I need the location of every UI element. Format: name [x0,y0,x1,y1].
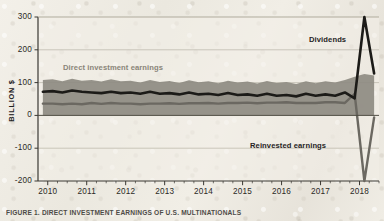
y-axis-tick-label: 100 [2,78,32,87]
x-axis-tick-label: 2015 [226,187,260,196]
series-label-dividends: Dividends [309,35,346,44]
x-axis-tick-label: 2010 [31,187,65,196]
figure-caption-text: DIRECT INVESTMENT EARNINGS OF U.S. MULTI… [42,209,241,216]
figure-container: BILLION $ Direct investment earnings Div… [0,0,384,221]
y-axis-tick-label: 0 [2,110,32,119]
x-axis-tick-label: 2011 [70,187,104,196]
figure-caption-label: FIGURE 1. [6,209,40,216]
x-axis-tick-label: 2017 [304,187,338,196]
y-axis-tick-label: -100 [2,143,32,152]
x-axis-tick-label: 2012 [109,187,143,196]
x-axis-tick-label: 2018 [343,187,377,196]
x-axis-tick-label: 2013 [148,187,182,196]
x-axis-tick-label: 2014 [187,187,221,196]
series-label-direct-investment-earnings: Direct investment earnings [63,63,163,72]
x-axis-tick-label: 2016 [265,187,299,196]
y-axis-tick-label: -200 [2,176,32,185]
figure-caption: FIGURE 1. DIRECT INVESTMENT EARNINGS OF … [6,209,241,216]
y-axis-tick-label: 300 [2,12,32,21]
series-label-reinvested-earnings: Reinvested earnings [250,141,326,150]
y-axis-tick-label: 200 [2,45,32,54]
